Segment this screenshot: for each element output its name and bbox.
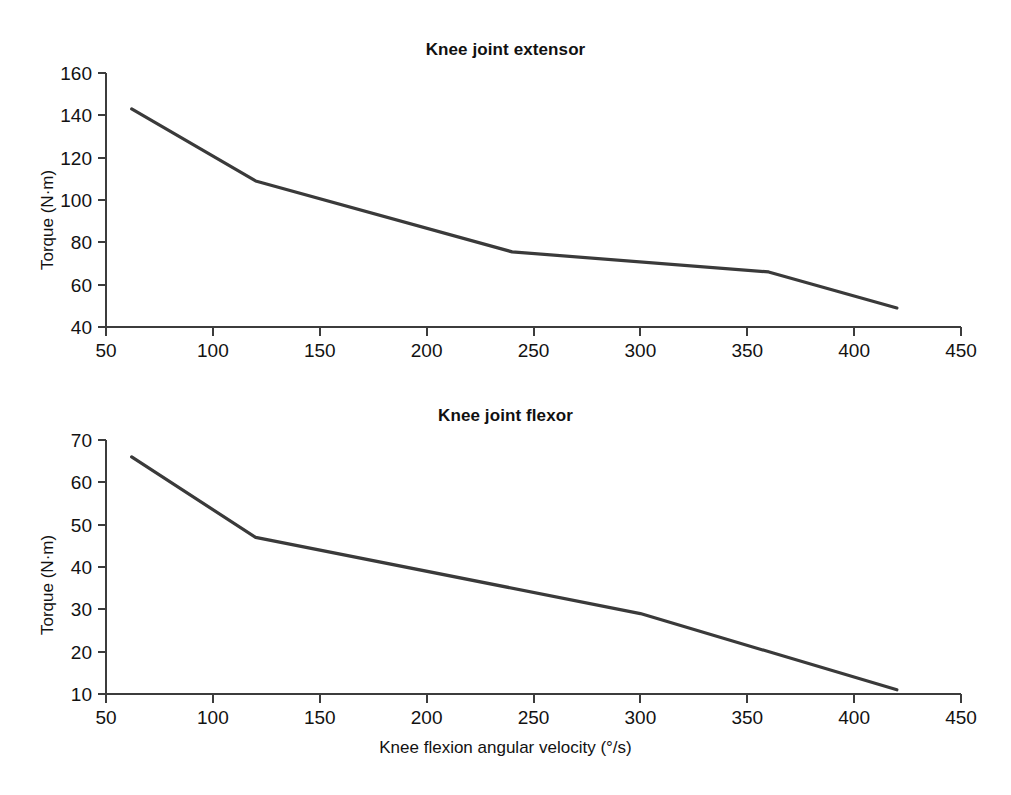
x-tick-label-flexor-5: 300 — [625, 707, 657, 728]
tick-labels-flexor: 1020304050607050100150200250300350400450 — [71, 430, 977, 728]
chart-panel-extensor: Knee joint extensor Torque (N·m) 4060801… — [0, 0, 1011, 375]
y-tick-label-flexor-6: 70 — [71, 430, 92, 451]
x-tick-label-flexor-7: 400 — [838, 707, 870, 728]
plot-area-extensor: 4060801001201401605010015020025030035040… — [0, 0, 1011, 375]
x-tick-label-extensor-3: 200 — [411, 340, 443, 361]
x-tick-label-extensor-6: 350 — [731, 340, 763, 361]
y-tick-label-extensor-3: 100 — [60, 190, 92, 211]
figure-container: Knee joint extensor Torque (N·m) 4060801… — [0, 0, 1011, 795]
x-tick-label-extensor-8: 450 — [945, 340, 977, 361]
x-tick-label-extensor-0: 50 — [95, 340, 116, 361]
y-tick-label-flexor-5: 60 — [71, 472, 92, 493]
x-tick-label-extensor-2: 150 — [304, 340, 336, 361]
y-tick-label-extensor-5: 140 — [60, 105, 92, 126]
x-tick-label-extensor-7: 400 — [838, 340, 870, 361]
plot-area-flexor: 1020304050607050100150200250300350400450 — [0, 370, 1011, 795]
y-tick-label-flexor-1: 20 — [71, 642, 92, 663]
chart-panel-flexor: Knee joint flexor Torque (N·m) 102030405… — [0, 370, 1011, 795]
axes-flexor — [98, 440, 961, 703]
axes-extensor — [98, 73, 961, 336]
y-tick-label-flexor-0: 10 — [71, 684, 92, 705]
data-line-extensor — [132, 109, 897, 308]
y-tick-label-flexor-4: 50 — [71, 515, 92, 536]
y-tick-label-extensor-2: 80 — [71, 232, 92, 253]
x-tick-label-extensor-1: 100 — [197, 340, 229, 361]
x-tick-label-extensor-5: 300 — [625, 340, 657, 361]
y-tick-label-extensor-1: 60 — [71, 275, 92, 296]
data-line-flexor — [132, 457, 897, 690]
y-tick-label-extensor-4: 120 — [60, 148, 92, 169]
x-axis-title-shared: Knee flexion angular velocity (°/s) — [0, 738, 1011, 758]
x-tick-label-flexor-1: 100 — [197, 707, 229, 728]
x-tick-label-flexor-4: 250 — [518, 707, 550, 728]
y-tick-label-flexor-2: 30 — [71, 599, 92, 620]
y-tick-label-extensor-6: 160 — [60, 63, 92, 84]
y-tick-label-flexor-3: 40 — [71, 557, 92, 578]
x-tick-label-extensor-4: 250 — [518, 340, 550, 361]
x-tick-label-flexor-0: 50 — [95, 707, 116, 728]
x-tick-label-flexor-6: 350 — [731, 707, 763, 728]
y-tick-label-extensor-0: 40 — [71, 317, 92, 338]
tick-labels-extensor: 4060801001201401605010015020025030035040… — [60, 63, 977, 361]
x-tick-label-flexor-8: 450 — [945, 707, 977, 728]
x-tick-label-flexor-2: 150 — [304, 707, 336, 728]
x-tick-label-flexor-3: 200 — [411, 707, 443, 728]
